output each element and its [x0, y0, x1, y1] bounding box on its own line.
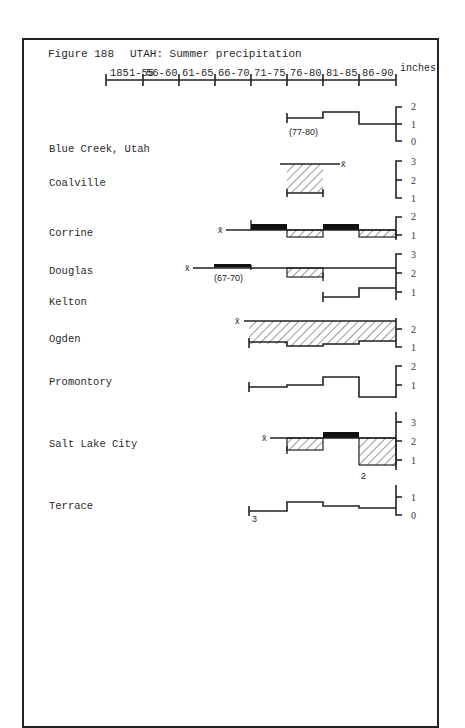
period-label: 71-75	[254, 67, 286, 79]
period-label: 76-80	[290, 67, 322, 79]
mean-marker-douglas: x̄	[185, 263, 190, 273]
period-label: 66-70	[218, 67, 250, 79]
scale-label: 1	[411, 455, 416, 466]
annotation-douglas: (67-70)	[214, 273, 243, 283]
scale-label: 3	[411, 417, 416, 428]
scale-label: 2	[411, 324, 416, 335]
scale-label: 2	[411, 436, 416, 447]
annotation-terrace: 3	[252, 514, 257, 524]
series-corrine	[226, 220, 396, 237]
series-salt-lake-city	[270, 432, 396, 465]
scale-label: 2	[411, 175, 416, 186]
scale-brackets	[396, 107, 402, 515]
mean-marker-coalville: x̄	[341, 159, 346, 169]
scale-label: 1	[411, 119, 416, 130]
series-promontory	[249, 377, 396, 397]
scale-label: 2	[411, 268, 416, 279]
scale-label: 2	[411, 211, 416, 222]
period-label: 81-85	[326, 67, 358, 79]
mean-marker-salt-lake-city: x̄	[262, 433, 267, 443]
scale-label: 1	[411, 193, 416, 204]
scale-label: 3	[411, 156, 416, 167]
mean-marker-ogden: x̄	[235, 316, 240, 326]
scale-label: 1	[411, 287, 416, 298]
series-ogden	[244, 321, 396, 348]
series-coalville	[280, 164, 340, 197]
scale-label: 2	[411, 101, 416, 112]
scale-labels: 2 1 0 3 2 1 2 1 3 2 1 2 1 2 1 3 2 1 1 0	[411, 101, 416, 521]
scale-label: 2	[411, 361, 416, 372]
period-label: 56-60	[146, 67, 178, 79]
annotation-blue-creek: (77-80)	[289, 127, 318, 137]
scale-label: 1	[411, 230, 416, 241]
scale-label: 0	[411, 136, 416, 147]
period-label: 61-65	[182, 67, 214, 79]
scale-label: 1	[411, 342, 416, 353]
annotation-salt-lake-city: 2	[361, 471, 366, 481]
series-terrace	[249, 502, 396, 516]
mean-marker-corrine: x̄	[218, 225, 223, 235]
scale-label: 0	[411, 510, 416, 521]
series-kelton	[323, 288, 396, 302]
scale-label: 1	[411, 492, 416, 503]
units-label: inches	[400, 63, 436, 74]
period-label: 86-90	[362, 67, 394, 79]
scale-label: 1	[411, 380, 416, 391]
scale-label: 3	[411, 249, 416, 260]
series-blue-creek	[287, 112, 396, 124]
period-labels: 1851-55 56-60 61-65 66-70 71-75 76-80 81…	[110, 63, 436, 79]
